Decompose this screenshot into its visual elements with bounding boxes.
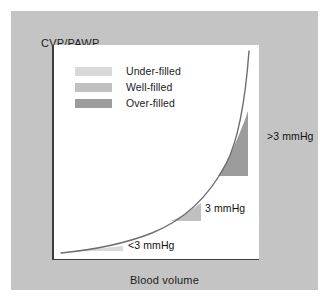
legend-swatch-icon-over-filled bbox=[75, 99, 112, 108]
legend-label-well-filled: Well-filled bbox=[126, 81, 172, 93]
y-axis-line bbox=[52, 45, 54, 260]
plot-area: Under-filled Well-filled Over-filled bbox=[52, 45, 259, 260]
x-axis-line bbox=[52, 259, 259, 261]
legend-item-over-filled: Over-filled bbox=[75, 95, 181, 111]
legend-item-well-filled: Well-filled bbox=[75, 79, 181, 95]
legend-item-under-filled: Under-filled bbox=[75, 63, 181, 79]
region-well-filled bbox=[171, 203, 201, 221]
legend-label-over-filled: Over-filled bbox=[126, 97, 175, 109]
legend: Under-filled Well-filled Over-filled bbox=[75, 63, 181, 111]
x-axis-label: Blood volume bbox=[11, 274, 318, 286]
figure-panel: CVP/PAWP Under-filled bbox=[11, 11, 318, 290]
legend-label-under-filled: Under-filled bbox=[126, 65, 181, 77]
region-over-filled bbox=[218, 111, 248, 176]
legend-swatch-icon-under-filled bbox=[75, 67, 112, 76]
annotation-well-filled: 3 mmHg bbox=[205, 202, 245, 214]
annotation-over-filled: >3 mmHg bbox=[267, 130, 314, 142]
annotation-under-filled: <3 mmHg bbox=[128, 239, 175, 251]
legend-swatch-icon-well-filled bbox=[75, 83, 112, 92]
figure-root: CVP/PAWP Under-filled bbox=[0, 0, 331, 304]
